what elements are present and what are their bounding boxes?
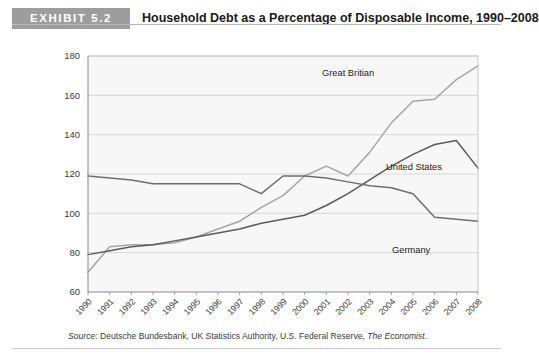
- x-axis-tick-label: 1992: [117, 296, 138, 317]
- x-axis-tick-label: 2005: [398, 296, 419, 317]
- line-chart: 6080100120140160180 19901991199219931994…: [0, 38, 513, 323]
- x-axis-tick-label: 2001: [312, 296, 333, 317]
- series-label-united-states: United States: [386, 162, 442, 172]
- source-label: Source:: [68, 331, 98, 341]
- x-axis-tick-label: 1996: [203, 296, 224, 317]
- chart-container: 6080100120140160180 19901991199219931994…: [0, 38, 513, 323]
- x-axis-tick-label: 2002: [333, 296, 354, 317]
- source-publication: The Economist: [367, 331, 424, 341]
- x-axis-tick-label: 1990: [73, 296, 94, 317]
- series-label-germany: Germany: [392, 245, 431, 255]
- y-axis-tick-label: 140: [64, 129, 80, 140]
- exhibit-header: EXHIBIT 5.2 Household Debt as a Percenta…: [0, 8, 513, 32]
- y-axis-ticks: 6080100120140160180: [64, 50, 80, 297]
- source-note: Source: Deutsche Bundesbank, UK Statisti…: [68, 331, 427, 341]
- y-axis-tick-label: 120: [64, 168, 80, 179]
- x-axis-tick-label: 2008: [463, 296, 484, 317]
- x-axis-tick-label: 2004: [377, 296, 398, 317]
- x-axis-tick-label: 1998: [247, 296, 268, 317]
- x-axis-tick-label: 1994: [160, 296, 181, 317]
- exhibit-title: Household Debt as a Percentage of Dispos…: [142, 8, 539, 29]
- exhibit-number-badge: EXHIBIT 5.2: [12, 8, 130, 29]
- x-axis-tick-label: 1997: [225, 296, 246, 317]
- y-axis-tick-label: 80: [69, 247, 80, 258]
- x-axis-tick-label: 1995: [182, 296, 203, 317]
- source-text: Deutsche Bundesbank, UK Statistics Autho…: [98, 331, 368, 341]
- x-axis-tick-label: 2000: [290, 296, 311, 317]
- y-axis-tick-label: 180: [64, 50, 80, 61]
- y-axis-tick-label: 60: [69, 286, 80, 297]
- x-axis-ticks: 1990199119921993199419951996199719981999…: [73, 292, 484, 317]
- footer-divider: [12, 348, 501, 349]
- x-axis-tick-label: 1991: [95, 296, 116, 317]
- x-axis-tick-label: 2003: [355, 296, 376, 317]
- x-axis-tick-label: 1993: [138, 296, 159, 317]
- series-label-great-britian: Great Britian: [322, 68, 374, 78]
- header-divider: [12, 24, 501, 25]
- x-axis-tick-label: 2006: [420, 296, 441, 317]
- x-axis-tick-label: 2007: [442, 296, 463, 317]
- y-axis-tick-label: 160: [64, 90, 80, 101]
- y-axis-tick-label: 100: [64, 208, 80, 219]
- source-tail: .: [425, 331, 427, 341]
- x-axis-tick-label: 1999: [268, 296, 289, 317]
